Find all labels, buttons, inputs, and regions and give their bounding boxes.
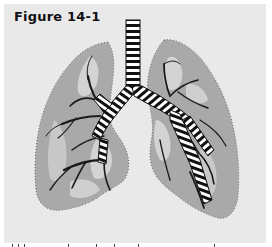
caption-cut-off — [4, 243, 268, 247]
trachea — [126, 20, 140, 90]
left-lung — [35, 42, 129, 210]
lungs-illustration — [0, 0, 272, 247]
